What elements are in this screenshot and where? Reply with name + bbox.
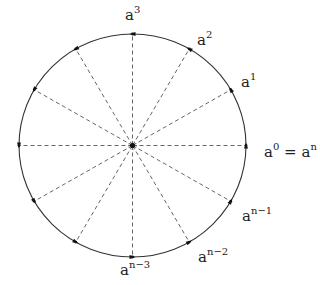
spoke-line bbox=[34, 146, 132, 202]
point-dot bbox=[131, 256, 134, 259]
label-an-minus-3: an−3 bbox=[120, 259, 150, 279]
spoke-line bbox=[76, 49, 133, 146]
label-a1: a1 bbox=[241, 71, 256, 91]
unit-circle-diagram: a3 a2 a1 a0 = an an−1 an−2 an−3 bbox=[0, 0, 320, 285]
point-dot bbox=[74, 241, 77, 244]
point-dot bbox=[18, 144, 21, 147]
label-an-minus-1: an−1 bbox=[242, 205, 272, 225]
point-dot bbox=[33, 88, 36, 91]
label-a0-equals-an: a0 = an bbox=[264, 141, 317, 161]
spoke-line bbox=[133, 49, 190, 146]
label-a3: a3 bbox=[125, 4, 140, 24]
point-dot bbox=[74, 48, 77, 51]
spoke-line bbox=[34, 90, 132, 146]
label-an-minus-2: an−2 bbox=[198, 246, 228, 266]
point-dot bbox=[188, 241, 191, 244]
spoke-line bbox=[133, 146, 231, 202]
point-dot bbox=[245, 144, 248, 147]
label-a2: a2 bbox=[197, 29, 212, 49]
point-dot bbox=[188, 48, 191, 51]
spoke-line bbox=[133, 90, 231, 146]
spoke-line bbox=[76, 146, 133, 243]
point-dot bbox=[229, 88, 232, 91]
spoke-line bbox=[133, 146, 190, 243]
point-dot bbox=[131, 33, 134, 36]
point-dot bbox=[229, 200, 232, 203]
point-dot bbox=[33, 200, 36, 203]
